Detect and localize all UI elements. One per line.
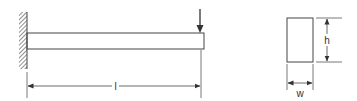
cantilever-diagram: l h w — [0, 0, 357, 101]
length-label: l — [114, 81, 116, 92]
width-label: w — [295, 88, 304, 99]
fixed-wall-support — [19, 12, 27, 69]
load-arrow-icon — [197, 9, 204, 33]
width-dimension — [287, 64, 313, 90]
height-label: h — [324, 35, 330, 46]
cross-section-rectangle — [287, 18, 313, 62]
beam — [27, 33, 204, 49]
